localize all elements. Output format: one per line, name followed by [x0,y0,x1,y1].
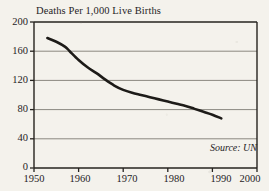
data-series-line [47,38,221,118]
x-axis-tick-label: 1950 [17,174,51,185]
x-axis-tick-label: 1980 [157,174,191,185]
y-axis-tick-label: 120 [0,75,28,86]
y-axis-tick-label: 160 [0,46,28,57]
plot-area [0,0,269,191]
y-axis-tick-label: 40 [0,133,28,144]
y-axis-tick-label: 0 [0,162,28,173]
source-annotation: Source: UN [210,142,257,153]
x-axis-tick-label: 2000 [233,174,267,185]
x-axis-tick-label: 1960 [63,174,97,185]
chart-title: Deaths Per 1,000 Live Births [36,5,161,16]
y-axis-tick-label: 80 [0,104,28,115]
x-axis-tick-label: 1970 [110,174,144,185]
y-axis-tick-label: 200 [0,17,28,28]
chart-container: Deaths Per 1,000 Live Births Source: UN … [0,0,269,191]
